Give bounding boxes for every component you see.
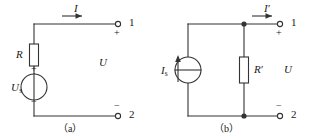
terminal-1-node-a [115,21,120,26]
current-arrow-iprime-b [252,13,272,19]
source-label-us-a: Us [11,82,22,94]
resistor-label-rprime-mark: ′ [261,63,263,75]
circuit-diagram-a: I R + Us − U + 1 − 2 （a） [0,0,157,140]
junction-dot-top-b [241,21,246,26]
resistor-label-rprime-base: R [254,63,261,75]
terminal-1-node-b [277,21,282,26]
source-minus-sign-a: − [31,97,37,107]
resistor-rprime-symbol [240,57,249,83]
caption-a: （a） [58,124,82,134]
current-label-iprime-b: I′ [264,3,270,14]
terminal-1-polarity-a: + [114,28,120,38]
current-label-i-a: I [74,3,78,14]
voltage-label-u-a: U [99,57,107,68]
source-label-us-base: U [11,81,19,93]
terminal-2-polarity-a: − [114,101,120,111]
current-arrow-i-a [62,13,82,19]
circuit-diagram-b: I′ Is R′ U + 1 − 2 （b） [156,0,313,140]
source-label-is-b: Is [161,65,168,77]
terminal-2-number-b: 2 [291,109,297,120]
junction-dot-bottom-b [241,113,246,118]
terminal-1-number-b: 1 [291,17,297,28]
source-label-is-subscript: s [165,69,168,78]
terminal-1-polarity-b: + [276,28,282,38]
source-plus-sign-a: + [31,64,37,74]
terminal-2-node-b [277,113,282,118]
terminal-2-number-a: 2 [129,109,135,120]
source-label-us-subscript: s [19,86,22,95]
caption-b: （b） [214,124,239,134]
terminal-1-number-a: 1 [129,17,135,28]
current-label-iprime-mark: ′ [268,2,270,14]
terminal-2-node-a [115,113,120,118]
figure-container: I R + Us − U + 1 − 2 （a） [0,0,313,140]
resistor-label-r-a: R [16,49,23,60]
voltage-label-u-b: U [284,64,292,75]
terminal-2-polarity-b: − [276,101,282,111]
resistor-label-rprime-b: R′ [254,64,263,75]
